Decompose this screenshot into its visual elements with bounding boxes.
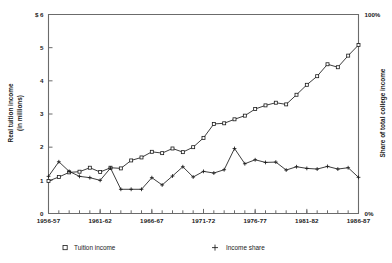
data-point-income-share xyxy=(88,176,92,180)
data-point-tuition-income xyxy=(181,151,184,154)
data-point-tuition-income xyxy=(316,75,319,78)
x-tick-label: 1976-77 xyxy=(243,217,267,224)
x-tick-label: 1986-87 xyxy=(347,217,371,224)
data-point-tuition-income xyxy=(192,146,195,149)
data-point-income-share xyxy=(129,187,133,191)
left-tick-label: 4 xyxy=(40,77,44,84)
legend-plus-icon xyxy=(212,245,218,251)
data-point-income-share xyxy=(336,167,340,171)
data-point-tuition-income xyxy=(130,159,133,162)
x-tick-label: 1966-67 xyxy=(140,217,164,224)
left-axis-tick-labels: $ 6543210 xyxy=(35,11,44,217)
x-axis-tick-labels: 1956-571961-621966-671971-721976-771981-… xyxy=(37,217,371,224)
data-point-income-share xyxy=(264,161,268,165)
data-point-tuition-income xyxy=(140,156,143,159)
data-point-tuition-income xyxy=(202,136,205,139)
data-point-tuition-income xyxy=(150,150,153,153)
data-point-tuition-income xyxy=(223,122,226,125)
y-axis-title-right-text: Share of total college income xyxy=(379,68,387,157)
left-tick-label: 2 xyxy=(40,143,44,150)
series-tuition-income xyxy=(47,44,360,183)
data-point-tuition-income xyxy=(78,170,81,173)
x-axis-ticks xyxy=(49,209,359,214)
data-point-income-share xyxy=(315,167,319,171)
y-axis-title-right: Share of total college income xyxy=(379,68,387,157)
data-point-tuition-income xyxy=(295,93,298,96)
left-tick-label: 3 xyxy=(40,110,44,117)
data-point-tuition-income xyxy=(99,171,102,174)
data-point-tuition-income xyxy=(243,114,246,117)
data-point-tuition-income xyxy=(274,101,277,104)
data-point-tuition-income xyxy=(305,83,308,86)
data-point-tuition-income xyxy=(285,103,288,106)
data-point-income-share xyxy=(222,168,226,172)
data-point-tuition-income xyxy=(254,108,257,111)
data-point-income-share xyxy=(326,165,330,169)
data-point-income-share xyxy=(305,166,309,170)
series-tuition-income-markers xyxy=(47,44,360,183)
data-point-income-share xyxy=(253,158,257,162)
left-tick-label: 1 xyxy=(40,177,44,184)
legend-item-income-share: Income share xyxy=(212,244,265,251)
x-tick-label: 1971-72 xyxy=(192,217,216,224)
data-point-tuition-income xyxy=(119,167,122,170)
plot-frame xyxy=(49,15,359,214)
data-point-tuition-income xyxy=(212,122,215,125)
data-point-tuition-income xyxy=(336,66,339,69)
y-axis-title-left-line1: Real tuition income xyxy=(7,83,14,142)
y-axis-title-left-line2: (in millions) xyxy=(16,95,24,131)
legend-square-icon xyxy=(63,246,67,250)
data-point-tuition-income xyxy=(233,118,236,121)
x-tick-label: 1956-57 xyxy=(37,217,61,224)
right-tick-label: 100% xyxy=(365,11,381,18)
data-point-tuition-income xyxy=(347,54,350,57)
data-point-tuition-income xyxy=(47,179,50,182)
data-point-income-share xyxy=(119,187,123,191)
legend-label-tuition-income: Tuition income xyxy=(74,244,116,251)
data-point-tuition-income xyxy=(57,176,60,179)
data-point-tuition-income xyxy=(326,63,329,66)
left-tick-label: 5 xyxy=(40,44,44,51)
data-point-tuition-income xyxy=(161,152,164,155)
x-tick-label: 1981-82 xyxy=(295,217,319,224)
left-tick-label: $ 6 xyxy=(35,11,44,18)
legend-item-tuition-income: Tuition income xyxy=(63,244,116,251)
data-point-tuition-income xyxy=(264,104,267,107)
tuition-income-line-chart: $ 6543210 100%0% 1956-571961-621966-6719… xyxy=(0,0,392,263)
chart-figure: $ 6543210 100%0% 1956-571961-621966-6719… xyxy=(0,0,392,263)
data-point-tuition-income xyxy=(88,166,91,169)
data-point-income-share xyxy=(212,171,216,175)
data-point-tuition-income xyxy=(357,44,360,47)
data-point-income-share xyxy=(295,165,299,169)
data-point-income-share xyxy=(78,174,82,178)
x-tick-label: 1961-62 xyxy=(88,217,112,224)
chart-legend: Tuition income Income share xyxy=(63,244,265,251)
left-axis-ticks xyxy=(49,15,53,214)
data-point-tuition-income xyxy=(171,147,174,150)
legend-label-income-share: Income share xyxy=(226,244,265,251)
data-point-income-share xyxy=(202,169,206,173)
y-axis-title-left: Real tuition income (in millions) xyxy=(7,83,24,142)
